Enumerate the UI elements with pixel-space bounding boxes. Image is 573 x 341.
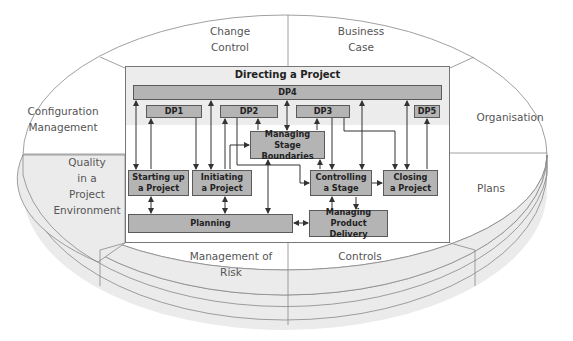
planning-label: Planning: [190, 218, 231, 229]
label-business-case: Business Case: [338, 23, 384, 55]
label-line: in a: [53, 170, 120, 186]
starting-up-a-project-box[interactable]: Starting upa Project: [128, 170, 189, 196]
mpd-line2: Delivery: [310, 229, 387, 240]
su-line2: a Project: [132, 183, 184, 194]
planning-box[interactable]: Planning: [128, 214, 293, 233]
dp3-label: DP3: [314, 106, 333, 117]
cs-line1: Controlling: [315, 172, 366, 183]
cp-line1: Closing: [390, 172, 431, 183]
label-line: Risk: [190, 264, 273, 280]
label-line: Project: [53, 186, 120, 202]
dp5-box[interactable]: DP5: [414, 105, 440, 118]
dp3-box[interactable]: DP3: [296, 105, 350, 118]
label-line: Configuration: [27, 103, 98, 119]
label-organisation: Organisation: [476, 109, 543, 125]
closing-a-project-box[interactable]: Closinga Project: [383, 170, 438, 196]
dp1-label: DP1: [165, 106, 184, 117]
controlling-a-stage-box[interactable]: Controllinga Stage: [310, 170, 372, 196]
su-line1: Starting up: [132, 172, 184, 183]
label-line: Controls: [338, 248, 381, 264]
dp4-box[interactable]: DP4: [133, 85, 442, 100]
label-line: Control: [210, 39, 250, 55]
cp-line2: a Project: [390, 183, 431, 194]
label-quality-in-a-project-environment: Quality in a Project Environment: [53, 154, 120, 218]
label-line: Business: [338, 23, 384, 39]
label-line: Environment: [53, 202, 120, 218]
ip-line2: a Project: [201, 183, 243, 194]
directing-a-project-title: Directing a Project: [126, 69, 449, 80]
initiating-a-project-box[interactable]: Initiatinga Project: [192, 170, 252, 196]
dp5-label: DP5: [418, 106, 437, 117]
label-change-control: Change Control: [210, 23, 250, 55]
dp2-box[interactable]: DP2: [220, 105, 278, 118]
label-controls: Controls: [338, 248, 381, 264]
label-line: Management: [27, 119, 98, 135]
label-line: Case: [338, 39, 384, 55]
dp2-label: DP2: [240, 106, 259, 117]
managing-product-delivery-box[interactable]: Managing ProductDelivery: [309, 210, 388, 237]
mpd-line1: Managing Product: [310, 207, 387, 229]
dp1-box[interactable]: DP1: [146, 105, 202, 118]
label-line: Change: [210, 23, 250, 39]
msb-line1: Managing Stage: [251, 129, 324, 151]
label-plans: Plans: [477, 180, 505, 196]
label-line: Organisation: [476, 109, 543, 125]
label-management-of-risk: Management of Risk: [190, 248, 273, 280]
label-line: Plans: [477, 180, 505, 196]
managing-stage-boundaries-box[interactable]: Managing StageBoundaries: [250, 131, 325, 159]
label-line: Management of: [190, 248, 273, 264]
label-line: Quality: [53, 154, 120, 170]
ip-line1: Initiating: [201, 172, 243, 183]
msb-line2: Boundaries: [251, 151, 324, 162]
dp4-label: DP4: [278, 87, 297, 98]
label-configuration-management: Configuration Management: [27, 103, 98, 135]
cs-line2: a Stage: [315, 183, 366, 194]
